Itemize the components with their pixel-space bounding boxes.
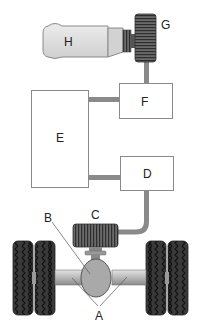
axle-right	[112, 270, 146, 285]
hub-right	[165, 272, 169, 284]
link-e-to-f	[88, 97, 120, 102]
pipe-d-to-c	[118, 190, 147, 232]
drum-c	[73, 224, 118, 260]
shaft-g-to-f	[144, 60, 149, 84]
label-c: C	[91, 208, 100, 222]
differential-b	[81, 259, 111, 297]
hub-left	[32, 272, 36, 284]
drum-c-flange	[85, 251, 106, 255]
tire-right-inner	[146, 241, 166, 315]
engine-coupling	[123, 30, 131, 52]
tire-left-inner	[35, 241, 55, 315]
drum-g	[135, 14, 156, 62]
label-g: G	[161, 18, 170, 32]
label-h: H	[64, 35, 73, 49]
tire-right-outer	[168, 241, 188, 315]
engine-body	[43, 24, 108, 59]
axle-left	[55, 270, 85, 285]
engine-h	[43, 24, 135, 59]
label-e: E	[56, 131, 64, 145]
label-b: B	[44, 211, 52, 225]
engine-flange	[131, 34, 135, 48]
tire-left-outer	[13, 241, 33, 315]
label-a: A	[95, 309, 103, 323]
drivetrain-diagram: H G F E D C B A	[0, 0, 199, 335]
label-f: F	[141, 95, 148, 109]
drum-c-neck	[89, 247, 102, 251]
engine-taper	[108, 28, 123, 57]
drum-g-body	[135, 14, 156, 62]
label-d: D	[143, 167, 152, 181]
link-e-to-d	[88, 175, 121, 180]
drum-c-body	[73, 224, 118, 247]
